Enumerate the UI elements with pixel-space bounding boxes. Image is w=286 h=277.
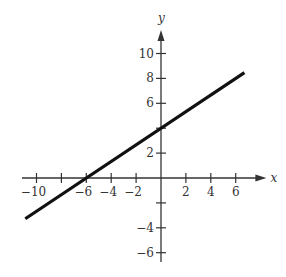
x-axis-label: x: [270, 171, 277, 185]
x-axis-arrow-icon: [255, 175, 266, 182]
x-tick-label: −4: [99, 185, 117, 199]
y-tick-label: 6: [146, 96, 154, 110]
y-axis-label: y: [157, 11, 165, 25]
x-tick-label: 2: [182, 185, 190, 199]
y-tick-label: 8: [146, 71, 154, 85]
y-axis-arrow-icon: [158, 30, 165, 41]
y-tick-label: −4: [136, 221, 154, 235]
y-tick-label: 2: [146, 146, 154, 160]
x-tick-label: −6: [74, 185, 92, 199]
y-tick-label: −6: [136, 246, 154, 260]
x-tick-label: 4: [207, 185, 215, 199]
x-tick-label: −10: [21, 185, 46, 199]
ticks: −10−6−4−2246−6−426810: [21, 47, 240, 260]
x-tick-label: 6: [232, 185, 240, 199]
y-tick-label: 10: [139, 47, 154, 61]
line-graph: −10−6−4−2246−6−426810 x y: [0, 0, 286, 277]
x-tick-label: −2: [124, 185, 142, 199]
plot-area: −10−6−4−2246−6−426810 x y: [0, 0, 286, 277]
